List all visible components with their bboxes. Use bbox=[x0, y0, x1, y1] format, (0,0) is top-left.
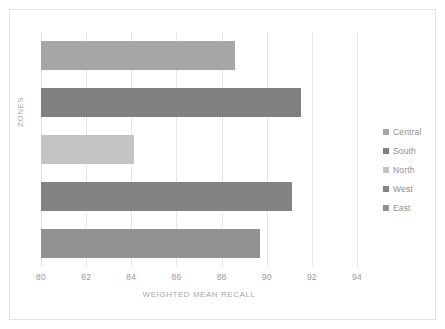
chart-legend: CentralSouthNorthWestEast bbox=[383, 122, 445, 217]
x-tick-label-80: 80 bbox=[36, 272, 46, 282]
bar-series bbox=[41, 32, 357, 267]
bar-central bbox=[41, 41, 235, 70]
x-axis-title: WEIGHTED MEAN RECALL bbox=[41, 290, 357, 299]
x-tick-label-92: 92 bbox=[307, 272, 317, 282]
legend-item-east[interactable]: East bbox=[383, 198, 445, 217]
legend-swatch-icon bbox=[383, 205, 389, 211]
legend-item-west[interactable]: West bbox=[383, 179, 445, 198]
legend-swatch-icon bbox=[383, 186, 389, 192]
legend-item-north[interactable]: North bbox=[383, 160, 445, 179]
legend-item-label: Central bbox=[393, 127, 421, 137]
legend-swatch-icon bbox=[383, 129, 389, 135]
chart-frame: 8082848688909294 WEIGHTED MEAN RECALL ZO… bbox=[9, 9, 436, 320]
x-axis-tick-labels: 8082848688909294 bbox=[41, 272, 357, 288]
legend-item-label: West bbox=[393, 184, 413, 194]
bar-fill bbox=[41, 182, 292, 211]
bar-fill bbox=[41, 229, 260, 258]
x-tick-label-88: 88 bbox=[217, 272, 227, 282]
bar-east bbox=[41, 229, 260, 258]
legend-item-south[interactable]: South bbox=[383, 141, 445, 160]
gridline-94 bbox=[357, 32, 358, 267]
x-tick-label-94: 94 bbox=[352, 272, 362, 282]
bar-fill bbox=[41, 41, 235, 70]
x-tick-label-86: 86 bbox=[171, 272, 181, 282]
legend-item-label: East bbox=[393, 203, 411, 213]
legend-swatch-icon bbox=[383, 167, 389, 173]
bar-fill bbox=[41, 88, 301, 117]
legend-item-label: South bbox=[393, 146, 416, 156]
bar-fill bbox=[41, 135, 134, 164]
plot-area bbox=[41, 32, 357, 267]
x-tick-label-90: 90 bbox=[262, 272, 272, 282]
bar-south bbox=[41, 88, 301, 117]
bar-north bbox=[41, 135, 134, 164]
y-axis-title: ZONES bbox=[16, 97, 25, 127]
legend-item-label: North bbox=[393, 165, 415, 175]
legend-item-central[interactable]: Central bbox=[383, 122, 445, 141]
x-tick-label-84: 84 bbox=[126, 272, 136, 282]
x-tick-label-82: 82 bbox=[81, 272, 91, 282]
bar-west bbox=[41, 182, 292, 211]
legend-swatch-icon bbox=[383, 148, 389, 154]
